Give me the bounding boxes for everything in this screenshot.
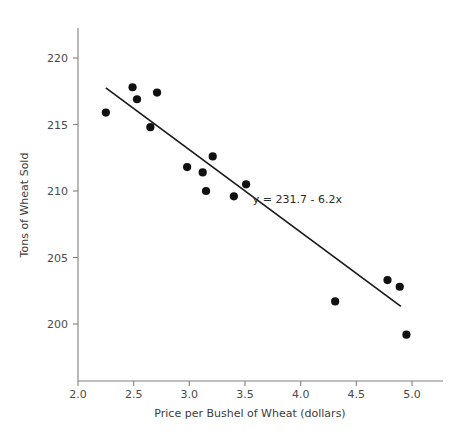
x-axis-ticks	[78, 381, 412, 386]
y-tick-label: 200	[47, 318, 68, 331]
y-tick-label: 220	[47, 52, 68, 65]
x-tick-label: 2.5	[125, 388, 143, 401]
y-axis-tick-labels: 220 215 210 205 200	[47, 52, 68, 331]
regression-equation-label: y = 231.7 - 6.2x	[253, 193, 343, 206]
data-point	[396, 283, 404, 291]
data-point	[146, 123, 154, 131]
data-points	[102, 83, 411, 339]
y-tick-label: 215	[47, 119, 68, 132]
data-point	[230, 192, 238, 200]
data-point	[183, 163, 191, 171]
y-axis-title: Tons of Wheat Sold	[18, 153, 31, 259]
data-point	[133, 95, 141, 103]
x-tick-label: 5.0	[403, 388, 421, 401]
data-point	[199, 168, 207, 176]
x-tick-label: 2.0	[69, 388, 87, 401]
x-tick-label: 4.0	[292, 388, 310, 401]
x-axis-tick-labels: 2.0 2.5 3.0 3.5 4.0 4.5 5.0	[69, 388, 421, 401]
data-point	[402, 331, 410, 339]
x-tick-label: 3.5	[236, 388, 254, 401]
data-point	[242, 180, 250, 188]
data-point	[128, 83, 136, 91]
data-point	[383, 276, 391, 284]
plot-canvas: 220 215 210 205 200 2.0 2.5 3.0 3.5 4.0 …	[0, 0, 458, 436]
x-tick-label: 3.0	[181, 388, 199, 401]
data-point	[202, 187, 210, 195]
x-axis-title: Price per Bushel of Wheat (dollars)	[154, 407, 345, 420]
data-point	[209, 152, 217, 160]
data-point	[102, 108, 110, 116]
y-tick-label: 205	[47, 252, 68, 265]
data-point	[153, 88, 161, 96]
x-tick-label: 4.5	[348, 388, 366, 401]
y-tick-label: 210	[47, 185, 68, 198]
scatter-plot-figure: 220 215 210 205 200 2.0 2.5 3.0 3.5 4.0 …	[0, 0, 458, 436]
y-axis-ticks	[73, 58, 78, 324]
data-point	[331, 297, 339, 305]
